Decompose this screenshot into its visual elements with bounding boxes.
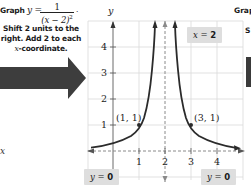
horizontal-asymptote-tag-left: y = 0 <box>84 169 119 185</box>
point-1-1 <box>137 123 141 127</box>
transform-arrow-icon <box>0 57 86 99</box>
right-fragment-title: Grap <box>234 6 251 15</box>
point-3-1 <box>189 123 193 127</box>
tag-var: y <box>90 172 95 182</box>
step-line-3-rest: -coordinate. <box>19 44 68 53</box>
denominator-exponent: 2 <box>69 14 72 20</box>
y-tick-2: 2 <box>101 93 107 104</box>
arrow-shape <box>0 57 86 99</box>
curve-right-branch <box>175 25 236 148</box>
x-tick-3: 3 <box>188 156 194 167</box>
step-line-1: Shift 2 units to the <box>0 24 82 34</box>
point-label-3-1: (3, 1) <box>194 112 220 123</box>
tag-val: 2 <box>210 30 216 40</box>
left-fragment-x-label: x <box>0 146 5 156</box>
y-tick-4: 4 <box>101 41 107 52</box>
step-line-3: x-coordinate. <box>0 44 82 54</box>
point-label-1-1: (1, 1) <box>116 112 142 123</box>
tag-eq: = <box>98 172 105 182</box>
x-tick-2: 2 <box>162 156 168 167</box>
equation-fraction: 1 (x − 2)2 <box>40 3 74 25</box>
tag-eq: = <box>215 172 222 182</box>
tag-val: 0 <box>107 172 113 182</box>
y-tick-3: 3 <box>101 67 107 78</box>
right-fragment-text: S <box>245 26 250 35</box>
y-axis-label: y <box>108 5 113 16</box>
horizontal-asymptote-tag-right: y = 0 <box>201 169 236 185</box>
tag-val: 0 <box>224 172 230 182</box>
right-fragment-arrow-icon <box>246 57 251 87</box>
function-graph: y x 4 3 2 1 1 2 3 4 (1, 1) (3, 1) x = 2 … <box>84 0 251 188</box>
instruction-steps: Shift 2 units to the right. Add 2 to eac… <box>0 24 82 54</box>
equation-period: . <box>76 5 78 15</box>
step-line-2: right. Add 2 to each <box>0 34 82 44</box>
y-tick-1: 1 <box>101 119 107 130</box>
tag-var: y <box>207 172 212 182</box>
instruction-title: Graph y = <box>0 5 42 16</box>
tag-eq: = <box>201 30 208 40</box>
x-tick-1: 1 <box>136 156 142 167</box>
x-axis <box>87 148 245 154</box>
x-tick-4: 4 <box>214 156 220 167</box>
y-axis <box>110 21 116 180</box>
fraction-numerator: 1 <box>40 3 74 13</box>
vertical-asymptote-tag: x = 2 <box>187 27 222 43</box>
tag-var: x <box>193 30 198 40</box>
graph-word: Graph <box>0 6 25 15</box>
